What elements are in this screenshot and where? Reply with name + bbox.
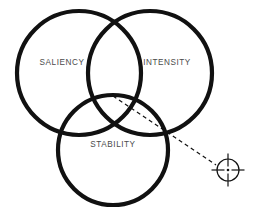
label-intensity: INTENSITY xyxy=(143,58,191,67)
label-saliency: SALIENCY xyxy=(40,58,85,67)
label-stability: STABILITY xyxy=(90,140,135,149)
venn-diagram-canvas: SALIENCY INTENSITY STABILITY xyxy=(0,0,263,216)
crosshair-target xyxy=(212,154,245,187)
circle-saliency xyxy=(17,11,141,135)
circle-intensity xyxy=(88,11,212,135)
circle-stability xyxy=(58,95,168,205)
target-center-dot-icon xyxy=(227,169,230,172)
venn-diagram-figure: SALIENCY INTENSITY STABILITY xyxy=(0,0,263,216)
